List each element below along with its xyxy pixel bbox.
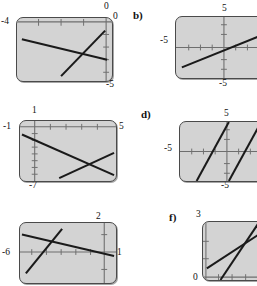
graph-c-plot [20, 121, 116, 181]
panel-f-label-top: 3 [196, 209, 201, 219]
series-line-2 [59, 153, 114, 178]
panel-e-label-left: -6 [2, 247, 10, 257]
panel-a-label-left: -4 [1, 16, 9, 26]
panel-d-label-top: 5 [224, 108, 229, 118]
series-line-1 [182, 33, 257, 67]
panel-a-label-top-right-inner: 0 [104, 1, 109, 11]
panel-c-label-right: 5 [119, 121, 124, 131]
graph-screen-f[interactable] [202, 221, 257, 281]
panel-d-label-left: -5 [164, 143, 172, 153]
series-line-1 [22, 135, 114, 176]
panel-b-label-top: 5 [222, 3, 227, 13]
panel-f-item-label: f) [169, 211, 176, 223]
graph-screen-b[interactable] [175, 16, 257, 79]
panel-c-label-left: -1 [3, 121, 11, 131]
graph-f-plot [203, 222, 257, 280]
graph-b-plot [176, 17, 257, 78]
series-line-1 [22, 235, 114, 256]
series-line-2 [220, 222, 257, 280]
graph-d-plot [180, 122, 257, 181]
panel-f-label-bottom: 0 [193, 272, 198, 282]
figure-sheet: -4 0 0 -5 b) [0, 0, 257, 286]
panel-a-label-top-right-outer: 0 [113, 11, 118, 21]
panel-c-label-top: 1 [32, 105, 37, 115]
panel-b-label-left: -5 [160, 35, 168, 45]
graph-screen-d[interactable] [179, 121, 257, 182]
graph-e-plot [20, 223, 116, 283]
graph-a-plot [17, 18, 112, 81]
panel-b-label-bottom: -5 [219, 78, 227, 88]
panel-d-item-label: d) [141, 108, 151, 120]
cropped-header-artifact [0, 0, 257, 7]
panel-e-label-right: 1 [117, 247, 122, 257]
panel-b-item-label: b) [133, 9, 143, 21]
graph-screen-e[interactable] [19, 222, 117, 284]
panel-e-label-top: 2 [96, 211, 101, 221]
graph-screen-a[interactable] [16, 17, 113, 82]
series-line-2 [61, 31, 105, 77]
graph-screen-c[interactable] [19, 120, 117, 182]
